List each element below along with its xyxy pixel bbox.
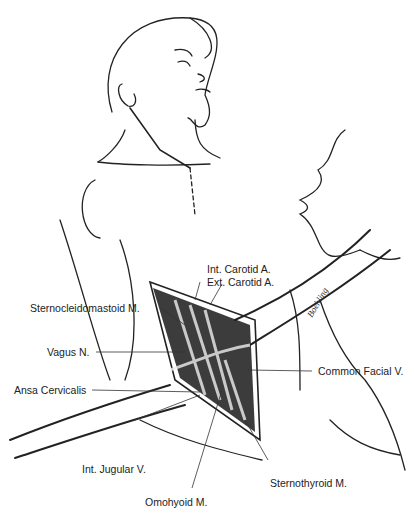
anatomy-drawing: Boehling (0, 0, 414, 516)
illustration-canvas: Boehling Int. Carotid A. Ext. Carotid A.… (0, 0, 414, 516)
label-ext-carotid: Ext. Carotid A. (207, 276, 274, 288)
label-sternothyroid: Sternothyroid M. (270, 477, 347, 489)
label-vagus: Vagus N. (47, 346, 89, 358)
label-omohyoid: Omohyoid M. (145, 496, 207, 508)
label-ansa-cervicalis: Ansa Cervicalis (14, 384, 86, 396)
label-common-facial: Common Facial V. (318, 365, 403, 377)
label-int-carotid: Int. Carotid A. (207, 263, 271, 275)
label-int-jugular: Int. Jugular V. (82, 463, 146, 475)
label-sternocleidomastoid: Sternocleidomastoid M. (30, 302, 140, 314)
artist-signature: Boehling (305, 285, 330, 319)
